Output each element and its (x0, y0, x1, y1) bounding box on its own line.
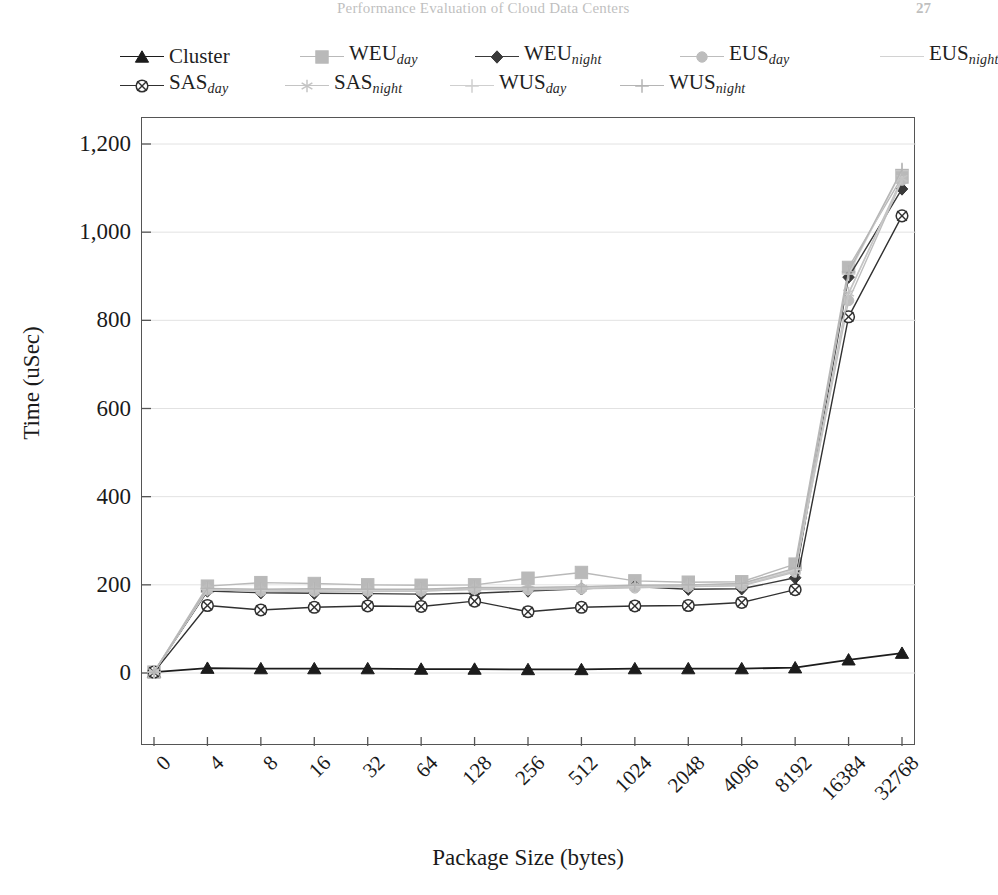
legend-row: ClusterWEUdayWEUnightEUSdayEUSnight (120, 42, 950, 71)
data-point-marker (736, 597, 748, 609)
legend-label-subscript: night (373, 81, 403, 96)
data-series-sas-night (149, 172, 908, 678)
x-tick-label: 64 (412, 752, 442, 782)
legend-item-wus-day[interactable]: WUSday (450, 71, 567, 100)
legend-marker-circle-icon (680, 47, 724, 67)
data-point-marker (465, 79, 479, 93)
legend-marker-plus-icon (620, 76, 664, 96)
x-tick-label: 128 (458, 752, 495, 789)
legend-label: EUSnight (929, 43, 998, 70)
x-tick-label: 256 (512, 752, 549, 789)
x-tick-label: 0 (153, 752, 175, 774)
x-tick-label: 32768 (871, 752, 923, 804)
data-point-marker (491, 50, 503, 62)
x-tick-label: 16384 (817, 752, 869, 804)
page-number: 27 (916, 0, 931, 17)
data-point-marker (136, 80, 148, 92)
data-point-marker (895, 647, 908, 658)
data-point-marker (629, 600, 641, 612)
data-point-marker (635, 79, 649, 93)
data-point-marker (135, 50, 148, 61)
legend-item-cluster[interactable]: Cluster (120, 42, 230, 71)
legend-label-subscript: day (397, 52, 418, 67)
legend-item-weu-night[interactable]: WEUnight (475, 42, 602, 71)
y-tick-label: 1,200 (11, 132, 131, 155)
legend-item-sas-night[interactable]: SASnight (285, 71, 402, 100)
legend-item-eus-day[interactable]: EUSday (680, 42, 790, 71)
legend-marker-glyph (131, 75, 153, 97)
data-point-marker (789, 584, 801, 596)
legend-item-wus-night[interactable]: WUSnight (620, 71, 745, 100)
x-tick-label: 16 (305, 752, 335, 782)
data-point-marker (362, 600, 374, 612)
legend-item-eus-night[interactable]: EUSnight (880, 42, 998, 71)
legend-label-subscript: day (546, 81, 567, 96)
chart-legend: ClusterWEUdayWEUnightEUSdayEUSnightSASda… (120, 42, 950, 100)
legend-label: SASnight (334, 72, 402, 99)
plot-area (141, 117, 915, 745)
data-point-marker (255, 604, 267, 616)
x-tick-label: 4 (206, 752, 228, 774)
legend-marker-glyph (131, 46, 153, 68)
legend-marker-glyph (311, 46, 333, 68)
legend-row: SASdaySASnightWUSdayWUSnight (120, 71, 950, 100)
x-tick-label: 8192 (771, 752, 816, 797)
series-line (154, 178, 902, 672)
legend-marker-square-icon (300, 47, 344, 67)
data-point-marker (202, 600, 214, 612)
data-point-marker (682, 600, 694, 612)
data-series-eus-night (154, 179, 902, 672)
data-point-marker (302, 79, 313, 91)
data-point-marker (522, 606, 534, 618)
data-point-marker (697, 51, 707, 61)
legend-marker-glyph (461, 75, 483, 97)
page-header: Performance Evaluation of Cloud Data Cen… (0, 0, 963, 20)
data-series-eus-day (149, 175, 907, 677)
x-tick-label: 32 (359, 752, 389, 782)
data-point-marker (576, 602, 588, 614)
data-point-marker (469, 595, 481, 607)
series-line (154, 189, 902, 672)
legend-label: WUSnight (669, 72, 745, 99)
x-tick-label: 512 (565, 752, 602, 789)
legend-label-subscript: day (769, 52, 790, 67)
x-tick-label: 4096 (718, 752, 763, 797)
legend-label-subscript: night (572, 52, 602, 67)
data-point-marker (575, 566, 587, 578)
data-point-marker (415, 601, 427, 613)
series-line (154, 179, 902, 672)
data-point-marker (896, 210, 908, 222)
y-tick-label: 200 (11, 572, 131, 595)
x-axis-title: Package Size (bytes) (141, 845, 915, 871)
x-tick-label: 1024 (611, 752, 656, 797)
data-point-marker (316, 50, 328, 62)
series-line (154, 180, 902, 672)
legend-marker-diamond-icon (475, 47, 519, 67)
legend-marker-crosscircle-icon (120, 76, 164, 96)
plot-canvas (142, 118, 916, 746)
series-line (154, 216, 902, 672)
legend-marker-glyph (486, 46, 508, 68)
x-axis-tick-labels: 0481632641282565121024204840968192163843… (141, 752, 915, 832)
legend-item-weu-day[interactable]: WEUday (300, 42, 418, 71)
y-axis-title: Time (uSec) (19, 273, 45, 493)
legend-label-subscript: night (716, 81, 746, 96)
legend-marker-glyph (691, 46, 713, 68)
legend-marker-plus-icon (450, 76, 494, 96)
legend-marker-star-icon (285, 76, 329, 96)
y-tick-label: 1,000 (11, 220, 131, 243)
legend-label: WEUnight (524, 43, 602, 70)
legend-item-sas-day[interactable]: SASday (120, 71, 228, 100)
legend-label: WUSday (499, 72, 567, 99)
legend-label-subscript: night (969, 52, 998, 67)
legend-marker-glyph (296, 75, 318, 97)
x-tick-label: 2048 (665, 752, 710, 797)
legend-marker-glyph (631, 75, 653, 97)
data-series-weu-day (148, 171, 908, 678)
x-tick-label: 8 (259, 752, 281, 774)
legend-label-subscript: day (208, 81, 229, 96)
legend-marker-none-icon (880, 47, 924, 67)
legend-marker-glyph (891, 46, 913, 68)
data-series-cluster (147, 647, 908, 677)
data-series-sas-day (148, 210, 908, 678)
